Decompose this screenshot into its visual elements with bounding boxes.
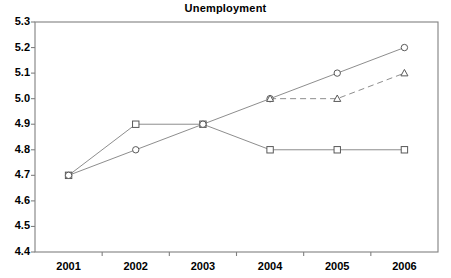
y-axis-tick-label: 4.4 (2, 246, 30, 257)
line-series-square (69, 124, 405, 175)
chart-plot-area (0, 0, 451, 278)
x-axis-tick-label: 2006 (382, 261, 426, 272)
y-axis-tick-label: 4.5 (2, 220, 30, 231)
marker-square (133, 121, 139, 127)
marker-triangle (334, 95, 341, 101)
chart-axes (31, 22, 438, 256)
y-axis-tick-label: 5.0 (2, 93, 30, 104)
x-axis-tick-label: 2003 (181, 261, 225, 272)
x-axis-tick-label: 2004 (248, 261, 292, 272)
x-axis-tick-label: 2005 (315, 261, 359, 272)
y-axis-tick-label: 5.3 (2, 16, 30, 27)
unemployment-chart: Unemployment 5.35.25.15.04.94.84.74.64.5… (0, 0, 451, 278)
line-series-circle (69, 48, 405, 176)
y-axis-tick-label: 5.1 (2, 67, 30, 78)
marker-circle (334, 70, 340, 76)
y-axis-tick-label: 4.9 (2, 118, 30, 129)
y-axis-tick-label: 5.2 (2, 42, 30, 53)
marker-triangle (401, 69, 408, 75)
y-axis-tick-label: 4.6 (2, 195, 30, 206)
marker-circle (200, 121, 206, 127)
x-axis-tick-label: 2001 (47, 261, 91, 272)
marker-square (401, 147, 407, 153)
y-axis-tick-label: 4.8 (2, 144, 30, 155)
marker-circle (133, 147, 139, 153)
marker-square (334, 147, 340, 153)
y-axis-tick-label: 4.7 (2, 169, 30, 180)
marker-circle (401, 44, 407, 50)
chart-series (65, 44, 408, 178)
marker-square (267, 147, 273, 153)
x-axis-tick-label: 2002 (114, 261, 158, 272)
marker-circle (65, 172, 71, 178)
